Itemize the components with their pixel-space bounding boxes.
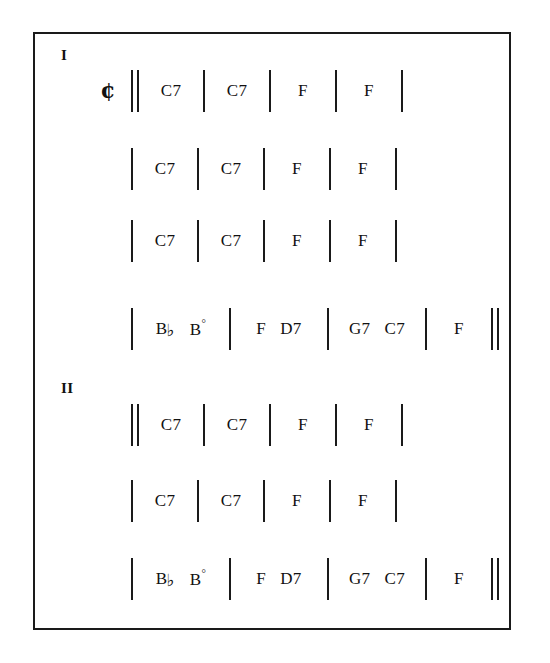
chord-quality: 7 bbox=[396, 319, 405, 338]
chord-quality: 7 bbox=[232, 159, 241, 178]
chord-quality: 7 bbox=[238, 81, 247, 100]
chord-root: C bbox=[227, 81, 239, 100]
chord-symbol: F bbox=[249, 320, 273, 337]
barline bbox=[401, 70, 403, 112]
measure: FD7 bbox=[231, 308, 327, 350]
chord-quality: 7 bbox=[166, 231, 175, 250]
chord-root: D bbox=[280, 569, 293, 588]
measure: F bbox=[271, 404, 335, 446]
measure: F bbox=[331, 220, 395, 262]
chord-root: F bbox=[298, 415, 308, 434]
chord-root: F bbox=[454, 319, 464, 338]
chord-symbol: B♭ bbox=[149, 570, 183, 587]
chord-root: C bbox=[384, 569, 396, 588]
staff-line: C7C7FF bbox=[95, 478, 397, 524]
chord-root: C bbox=[221, 491, 233, 510]
chord-quality: 7 bbox=[238, 415, 247, 434]
chord-root: C bbox=[161, 81, 173, 100]
chord-quality: 7 bbox=[232, 231, 241, 250]
chord-root: F bbox=[364, 81, 374, 100]
chord-symbol: F bbox=[285, 160, 309, 177]
chord-symbol: C7 bbox=[220, 416, 255, 433]
staff-line: C7C7FF bbox=[95, 146, 397, 192]
chord-root: C bbox=[221, 159, 233, 178]
chord-root: C bbox=[155, 159, 167, 178]
barline bbox=[395, 480, 397, 522]
measure: F bbox=[271, 70, 335, 112]
chord-root: F bbox=[256, 569, 266, 588]
chord-symbol: G7 bbox=[342, 570, 378, 587]
measure: C7 bbox=[139, 70, 203, 112]
chord-quality: 7 bbox=[232, 491, 241, 510]
chord-symbol: B° bbox=[183, 319, 214, 338]
chord-root: C bbox=[384, 319, 396, 338]
chord-quality: 7 bbox=[172, 415, 181, 434]
chord-symbol: C7 bbox=[148, 492, 183, 509]
measure: F bbox=[265, 220, 329, 262]
chord-symbol: B♭ bbox=[149, 320, 183, 337]
chord-symbol: C7 bbox=[148, 160, 183, 177]
chord-symbol: C7 bbox=[148, 232, 183, 249]
chord-symbol: D7 bbox=[273, 570, 309, 587]
chord-symbol: C7 bbox=[154, 416, 189, 433]
measure: F bbox=[265, 148, 329, 190]
chord-root: C bbox=[161, 415, 173, 434]
chord-quality: 7 bbox=[362, 569, 371, 588]
measure: C7 bbox=[133, 148, 197, 190]
measure: F bbox=[331, 148, 395, 190]
double-barline-close bbox=[491, 558, 499, 600]
barline bbox=[395, 220, 397, 262]
chord-quality: 7 bbox=[172, 81, 181, 100]
section-label-ii: II bbox=[61, 381, 74, 396]
staff-line: C7C7FF bbox=[95, 402, 403, 448]
chord-root: F bbox=[256, 319, 266, 338]
chord-symbol: F bbox=[357, 82, 381, 99]
measure: F bbox=[337, 70, 401, 112]
chord-symbol: F bbox=[291, 82, 315, 99]
measure: C7 bbox=[133, 220, 197, 262]
chord-chart-frame: I¢C7C7FFC7C7FFC7C7FFB♭B°FD7G7C7FIIC7C7FF… bbox=[33, 32, 511, 630]
staff-line: C7C7FF bbox=[95, 218, 397, 264]
barline bbox=[395, 148, 397, 190]
chord-symbol: C7 bbox=[214, 160, 249, 177]
chord-root: F bbox=[358, 159, 368, 178]
cut-time-meter-icon: ¢ bbox=[95, 79, 121, 101]
measure: C7 bbox=[199, 220, 263, 262]
chord-root: F bbox=[298, 81, 308, 100]
measure: C7 bbox=[205, 70, 269, 112]
chord-root: C bbox=[227, 415, 239, 434]
measure: B♭B° bbox=[133, 308, 229, 350]
chord-root: F bbox=[364, 415, 374, 434]
chord-quality: 7 bbox=[166, 159, 175, 178]
chord-root: C bbox=[155, 491, 167, 510]
chord-root: F bbox=[292, 231, 302, 250]
measure: F bbox=[337, 404, 401, 446]
chord-symbol: C7 bbox=[214, 232, 249, 249]
chord-root: C bbox=[155, 231, 167, 250]
chord-symbol: F bbox=[285, 492, 309, 509]
chord-symbol: F bbox=[351, 160, 375, 177]
chord-quality: 7 bbox=[166, 491, 175, 510]
chord-quality: 7 bbox=[293, 319, 302, 338]
measure: G7C7 bbox=[329, 558, 425, 600]
chord-symbol: D7 bbox=[273, 320, 309, 337]
diminished-degree-icon: ° bbox=[202, 567, 207, 579]
chord-symbol: C7 bbox=[154, 82, 189, 99]
diminished-degree-icon: ° bbox=[202, 317, 207, 329]
measure: C7 bbox=[205, 404, 269, 446]
chord-root: F bbox=[292, 159, 302, 178]
chord-symbol: F bbox=[351, 232, 375, 249]
chord-symbol: C7 bbox=[377, 570, 412, 587]
double-barline-close bbox=[491, 308, 499, 350]
measure: F bbox=[265, 480, 329, 522]
measure: F bbox=[427, 308, 491, 350]
chord-symbol: C7 bbox=[377, 320, 412, 337]
chord-root: F bbox=[358, 231, 368, 250]
chord-symbol: C7 bbox=[220, 82, 255, 99]
double-barline-open bbox=[131, 404, 139, 446]
chord-root: F bbox=[292, 491, 302, 510]
staff-line: B♭B°FD7G7C7F bbox=[95, 556, 499, 602]
chord-root: B bbox=[190, 319, 202, 338]
chord-root: D bbox=[280, 319, 293, 338]
chord-symbol: F bbox=[447, 320, 471, 337]
